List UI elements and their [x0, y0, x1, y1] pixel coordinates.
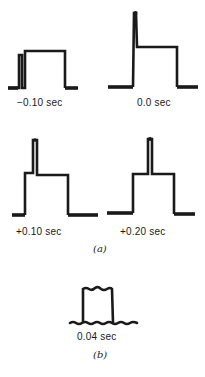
- waveform-figure: −0.10 sec 0.0 sec +0.10 sec +0.20 sec (a…: [0, 0, 205, 377]
- trace-minus-0-10: [8, 51, 78, 88]
- panel-label-a: (a): [93, 243, 107, 254]
- time-label-minus-0-10: −0.10 sec: [17, 97, 62, 108]
- time-label-plus-0-10: +0.10 sec: [16, 226, 61, 237]
- trace-plus-0-10: [12, 138, 98, 215]
- trace-0-0: [108, 11, 198, 87]
- time-label-0-04: 0.04 sec: [77, 331, 116, 342]
- panel-label-b: (b): [93, 349, 107, 360]
- trace-plus-0-20: [107, 137, 195, 214]
- time-label-plus-0-20: +0.20 sec: [120, 226, 165, 237]
- waveform-canvas: [0, 0, 205, 377]
- time-label-0-0: 0.0 sec: [137, 97, 171, 108]
- trace-0-04: [70, 287, 137, 324]
